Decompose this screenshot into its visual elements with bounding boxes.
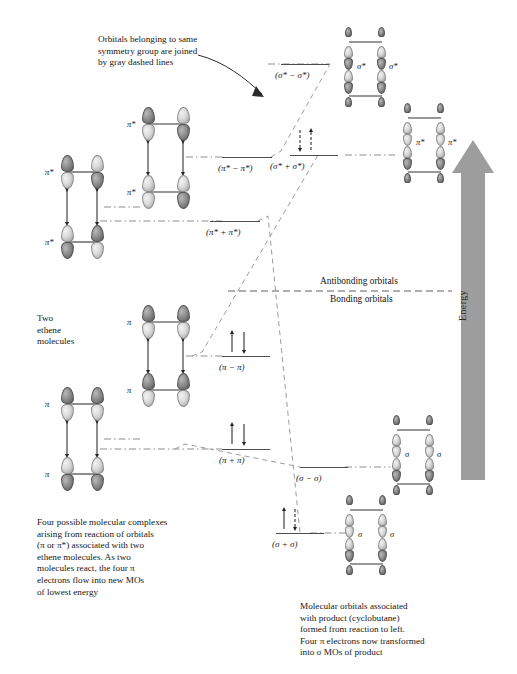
level-bar-pi-star-minus-pi-star xyxy=(222,157,272,158)
level-bar-sigma-minus-sigma xyxy=(300,467,348,468)
orbital-label-pi-star-upper-a: π* xyxy=(45,167,54,177)
energy-axis-label: Energy xyxy=(457,290,489,321)
level-label-pi-plus-pi: (π + π) xyxy=(219,455,245,465)
orbital-label-sigma-product-lower-a: σ xyxy=(358,529,362,539)
orbital-label-pi-complex-lower: π xyxy=(127,385,131,395)
note-pointer-arrow xyxy=(198,55,264,97)
level-label-pi-star-plus-pi-star: (π* + π*) xyxy=(206,227,241,237)
orbital-label-pi-star-complex-upper: π* xyxy=(127,119,136,129)
level-bar-pi-star-plus-pi-star xyxy=(210,221,260,222)
antibonding-zone-label: Antibonding orbitals xyxy=(320,276,398,286)
mo-correlation-diagram: Orbitals belonging to same symmetry grou… xyxy=(0,0,517,674)
orbital-label-pi-lower-a: π xyxy=(45,399,49,409)
level-label-sigma-star-plus-sigma-star: (σ* + σ*) xyxy=(270,161,304,171)
dashed-line-note: Orbitals belonging to same symmetry grou… xyxy=(98,34,197,69)
energy-arrow-head xyxy=(452,140,494,173)
energy-arrow-shaft xyxy=(461,170,485,480)
orbital-label-pi-lower-b: π xyxy=(45,469,49,479)
interaction-arrows xyxy=(67,142,183,456)
level-label-sigma-star-minus-sigma-star: (σ* − σ*) xyxy=(275,70,309,80)
right-caption: Molecular orbitals associated with produ… xyxy=(300,601,425,659)
orbital-label-sigma-product-lower-b: σ xyxy=(390,529,394,539)
level-bar-sigma-star-plus-sigma-star xyxy=(290,155,338,156)
bonding-zone-label: Bonding orbitals xyxy=(330,294,393,304)
level-bar-sigma-plus-sigma xyxy=(276,533,324,534)
level-label-sigma-plus-sigma: (σ + σ) xyxy=(272,539,297,549)
level-label-pi-star-minus-pi-star: (π* − π*) xyxy=(218,163,253,173)
level-bar-pi-minus-pi xyxy=(222,356,270,357)
energy-axis-arrow: Energy xyxy=(452,140,494,480)
orbital-label-sigma-product-upper-a: σ xyxy=(405,449,409,459)
level-bar-pi-plus-pi xyxy=(222,449,270,450)
orbital-label-sigma-product-upper-b: σ xyxy=(437,449,441,459)
orbital-label-pi-star-product-b: π* xyxy=(448,137,457,147)
orbital-label-sigma-star-product-a: σ* xyxy=(357,61,366,71)
level-label-sigma-minus-sigma: (σ − σ) xyxy=(296,473,321,483)
reactant-label: Two ethene molecules xyxy=(37,313,74,348)
orbital-label-pi-star-product-a: π* xyxy=(416,137,425,147)
correlation-lines xyxy=(175,64,330,533)
orbital-label-sigma-star-product-b: σ* xyxy=(389,61,398,71)
level-label-pi-minus-pi: (π − π) xyxy=(219,362,245,372)
left-caption: Four possible molecular complexes arisin… xyxy=(37,517,167,598)
orbital-label-pi-star-complex-lower: π* xyxy=(127,187,136,197)
orbital-label-pi-complex-upper: π xyxy=(127,317,131,327)
orbital-label-pi-star-upper-b: π* xyxy=(45,237,54,247)
electron-spin-arrows xyxy=(232,130,311,529)
level-bar-sigma-star-minus-sigma-star xyxy=(281,64,329,65)
